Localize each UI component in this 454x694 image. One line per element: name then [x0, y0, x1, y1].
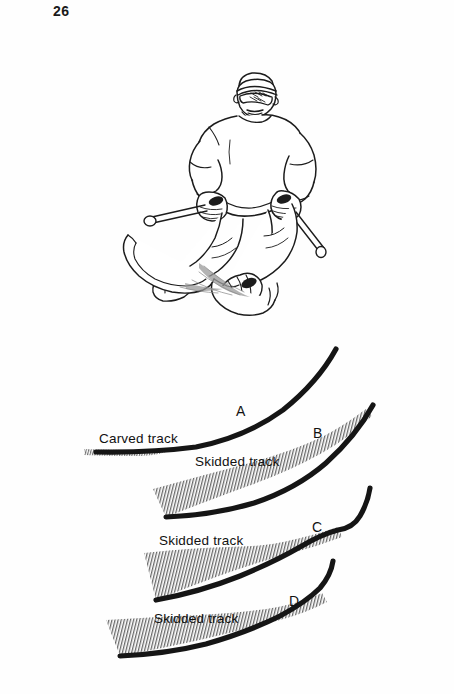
track-a-letter: A [236, 403, 245, 419]
track-b-letter: B [313, 425, 322, 441]
skier-illustration [124, 73, 327, 315]
track-d-label: Skidded track [154, 611, 238, 626]
track-a-label: Carved track [99, 431, 178, 446]
figure-artwork [0, 0, 454, 694]
track-b-label: Skidded track [195, 454, 279, 469]
track-c-label: Skidded track [159, 533, 243, 548]
book-page: 26 [0, 0, 454, 694]
pole-basket-right [316, 247, 326, 258]
track-c-letter: C [312, 519, 322, 535]
skier-head [234, 73, 278, 119]
track-d-letter: D [289, 593, 299, 609]
pole-basket-left [144, 216, 156, 226]
